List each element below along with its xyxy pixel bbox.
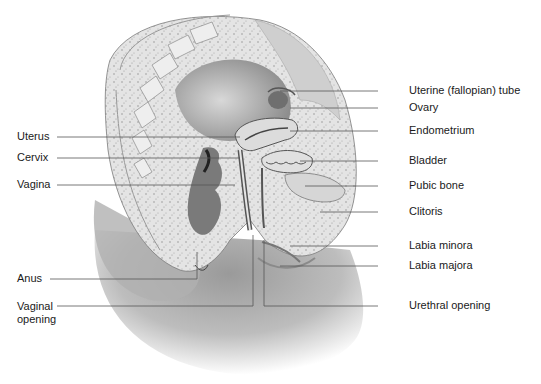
bladder-shape xyxy=(262,151,313,173)
anatomy-illustration xyxy=(0,0,541,384)
label-uterine-tube: Uterine (fallopian) tube xyxy=(409,84,520,97)
label-clitoris: Clitoris xyxy=(409,205,443,218)
label-bladder: Bladder xyxy=(409,154,447,167)
anatomy-diagram: Uterus Cervix Vagina Anus Vaginal openin… xyxy=(0,0,541,384)
label-urethral-opening: Urethral opening xyxy=(409,299,490,312)
label-cervix: Cervix xyxy=(17,151,48,164)
label-anus: Anus xyxy=(17,272,42,285)
ovary-shape xyxy=(268,91,288,109)
label-labia-minora: Labia minora xyxy=(409,239,473,252)
label-pubic-bone: Pubic bone xyxy=(409,179,464,192)
label-ovary: Ovary xyxy=(409,101,438,114)
label-vagina: Vagina xyxy=(17,178,50,191)
label-endometrium: Endometrium xyxy=(409,124,474,137)
label-uterus: Uterus xyxy=(17,130,49,143)
label-labia-majora: Labia majora xyxy=(409,259,473,272)
label-vaginal-opening: Vaginal opening xyxy=(17,300,56,326)
